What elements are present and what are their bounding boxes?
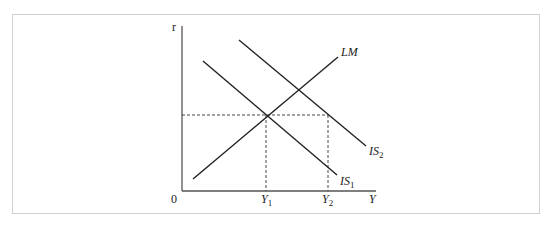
- is-lm-diagram: r 0 Y LM IS1 IS2 Y1 Y2: [0, 0, 551, 225]
- y1-tick-label: Y1: [261, 192, 272, 208]
- is1-curve: [203, 61, 337, 175]
- is1-label: IS1: [339, 174, 355, 190]
- lm-label: LM: [340, 45, 359, 59]
- is2-label: IS2: [368, 144, 384, 160]
- y2-tick-label: Y2: [322, 192, 333, 208]
- y-axis-label: r: [172, 20, 176, 34]
- x-axis-label: Y: [369, 192, 377, 206]
- lm-curve: [193, 57, 338, 179]
- origin-label: 0: [171, 192, 177, 206]
